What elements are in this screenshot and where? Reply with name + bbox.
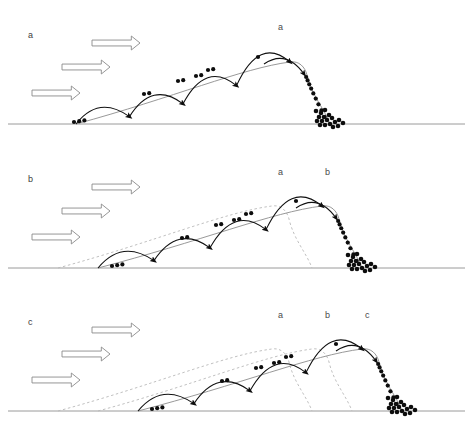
deposited-grain-3 [355,252,360,257]
saltation-hop-2 [154,239,210,261]
slipface-grain-2 [337,222,341,226]
slipface-grain-7 [316,102,320,106]
deposited-grain-9 [397,405,402,410]
deposited-grain-4 [317,115,322,120]
saltation-hop-4 [306,340,362,373]
deposited-grain-12 [355,267,360,272]
deposited-grain-8 [352,263,357,268]
deposited-grain-2 [319,111,324,116]
crest-overpass-hop [264,58,304,74]
saltation-hop-2 [194,382,250,404]
grain-cluster-5 [206,68,210,72]
grain-cluster-4 [199,73,203,77]
figure-caption [0,425,473,433]
deposited-grain-16 [403,412,408,417]
grain-cluster-1 [160,405,164,409]
slipface-grain-3 [307,82,311,86]
deposited-grain-1 [314,109,319,114]
slipface-grain-5 [343,235,347,239]
grain-cluster-3 [219,222,223,226]
dune-current-a [76,62,330,124]
deposited-grain-14 [405,407,410,412]
wind-direction-arrow-3 [32,373,80,387]
grain-cluster-4 [194,74,198,78]
grain-cluster-1 [72,120,76,124]
deposited-grain-10 [330,116,335,121]
saltation-hop-4 [237,53,291,86]
deposited-grain-2 [391,398,396,403]
deposited-grain-11 [318,123,323,128]
panel-b: bab [8,167,465,273]
deposited-grain-3 [395,395,400,400]
deposited-grain-11 [350,267,355,272]
grain-cluster-6 [334,342,338,346]
deposited-grain-7 [315,119,320,124]
deposited-grain-16 [331,125,336,130]
deposited-grain-16 [363,269,368,274]
wind-direction-arrow-3 [32,86,80,100]
deposited-grain-14 [333,120,338,125]
deposited-grain-8 [392,406,397,411]
slipface-grain-4 [381,374,385,378]
grain-cluster-6 [294,199,298,203]
deposited-grain-15 [369,262,374,267]
deposited-grain-1 [386,396,391,401]
wind-direction-arrow-1 [92,323,140,337]
slipface-grain-6 [346,241,350,245]
deposited-grain-18 [413,408,418,413]
crest-overpass-hop [296,202,336,218]
grain-cluster-1 [115,263,119,267]
grain-cluster-5 [244,212,248,216]
crest-label-a: a [278,22,283,32]
deposited-grain-12 [323,123,328,128]
slipface-grain-5 [311,91,315,95]
slipface-grain-4 [341,231,345,235]
grain-cluster-4 [237,217,241,221]
crest-label-a: a [278,167,283,177]
deposited-grain-7 [387,406,392,411]
dune-current-c [138,349,402,411]
grain-cluster-6 [256,55,260,59]
slipface-grain-3 [339,226,343,230]
deposited-grain-11 [390,410,395,415]
crest-label-b: b [325,167,330,177]
grain-cluster-2 [220,379,224,383]
deposited-grain-15 [337,118,342,123]
slipface-grain-5 [383,378,387,382]
grain-cluster-2 [225,378,229,382]
dune-previous-a [58,349,312,411]
grain-cluster-2 [147,91,151,95]
deposited-grain-9 [325,118,330,123]
dune-migration-figure: aababcabc [0,0,473,433]
deposited-grain-1 [346,253,351,258]
deposited-grain-17 [336,124,341,129]
deposited-grain-9 [357,262,362,267]
deposited-grain-14 [365,264,370,269]
slipface-grain-6 [386,384,390,388]
slipface-grain-7 [388,389,392,393]
deposited-grain-17 [408,411,413,416]
wind-direction-arrow-3 [32,230,80,244]
panels-root: aababcabc [8,22,465,416]
crest-label-c: c [365,310,370,320]
crest-overpass-hop [336,345,376,361]
deposited-grain-4 [349,259,354,264]
crest-label-a: a [278,310,283,320]
grain-cluster-1 [120,262,124,266]
slipface-grain-2 [377,365,381,369]
panel-letter-c: c [28,317,33,327]
saltation-hop-3 [183,76,237,103]
panel-letter-a: a [28,30,33,40]
deposited-grain-4 [389,402,394,407]
wind-direction-arrow-1 [92,180,140,194]
grain-cluster-5 [249,211,253,215]
grain-cluster-3 [254,366,258,370]
panel-letter-b: b [28,174,33,184]
panel-c: cabc [8,310,465,416]
deposited-grain-7 [347,263,352,268]
grain-cluster-1 [150,407,154,411]
deposited-grain-15 [409,405,414,410]
saltation-hop-2 [130,95,184,117]
saltation-hop-4 [266,197,322,230]
grain-cluster-3 [259,365,263,369]
